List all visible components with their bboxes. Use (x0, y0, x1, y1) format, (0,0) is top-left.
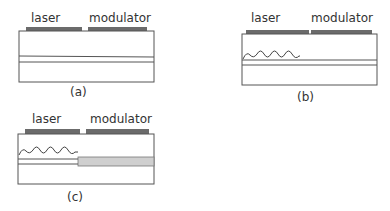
grating-icon (243, 51, 300, 59)
caption-b: (b) (297, 90, 314, 104)
caption-a: (a) (70, 85, 87, 99)
modulator-label: modulator (311, 11, 373, 25)
grating-icon (19, 147, 78, 155)
modulator-contact (88, 27, 147, 31)
laser-contact (246, 30, 309, 34)
laser-contact (26, 27, 82, 31)
panel-b: laser modulator (b) (242, 11, 377, 104)
laser-label: laser (32, 112, 61, 126)
caption-c: (c) (67, 190, 83, 204)
modulator-label: modulator (90, 112, 152, 126)
laser-label: laser (251, 11, 280, 25)
panel-a: laser modulator (a) (19, 11, 154, 99)
modulator-waveguide-section (78, 157, 154, 166)
waveguide-top-layer (19, 56, 154, 57)
panel-c: laser modulator (c) (18, 112, 154, 204)
laser-label: laser (31, 11, 60, 25)
figure-canvas: laser modulator (a) laser modulator (b) … (0, 0, 390, 211)
modulator-contact (86, 129, 149, 134)
modulator-contact (311, 30, 372, 34)
modulator-label: modulator (89, 11, 151, 25)
laser-contact (25, 129, 80, 134)
